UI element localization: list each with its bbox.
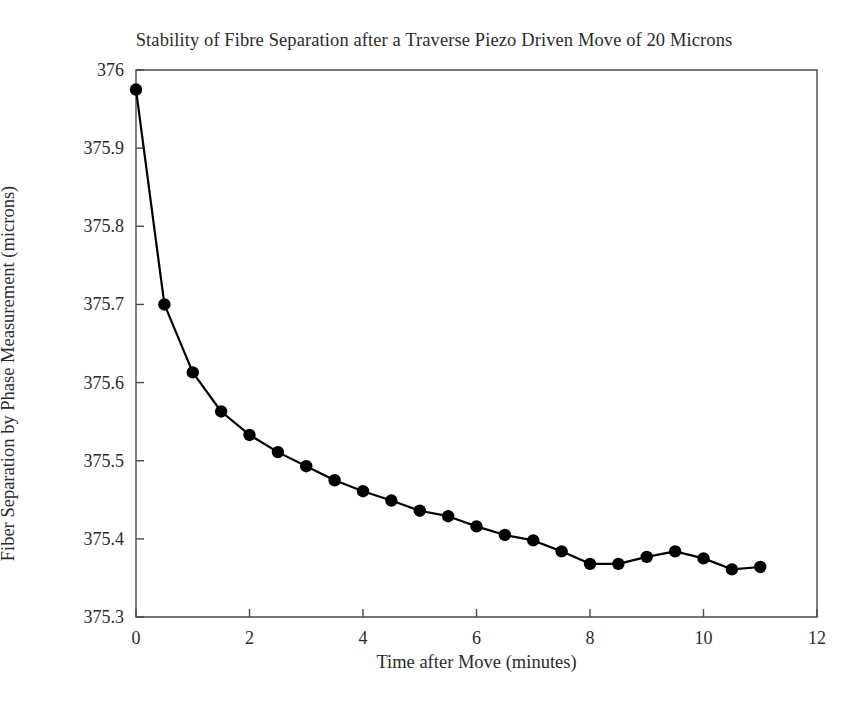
x-axis-label: Time after Move (minutes) [136, 652, 817, 673]
data-point-marker [328, 474, 340, 486]
data-point-marker [555, 545, 567, 557]
x-axis-tick-label: 2 [245, 628, 254, 648]
y-axis-tick-label: 375.8 [84, 216, 125, 236]
x-axis-tick-label: 12 [808, 628, 826, 648]
data-point-marker [499, 529, 511, 541]
data-point-marker [215, 405, 227, 417]
x-axis-tick-label: 8 [586, 628, 595, 648]
x-axis-tick-label: 4 [359, 628, 368, 648]
x-axis-tick-label: 0 [132, 628, 141, 648]
chart-figure: Stability of Fibre Separation after a Tr… [0, 0, 868, 707]
x-axis-tick-label: 6 [472, 628, 481, 648]
data-point-marker [357, 485, 369, 497]
data-point-marker [243, 429, 255, 441]
axis-frame [136, 70, 817, 617]
data-point-marker [385, 494, 397, 506]
data-point-marker [697, 552, 709, 564]
y-axis-tick-label: 375.5 [84, 451, 125, 471]
data-point-marker [300, 460, 312, 472]
data-point-marker [641, 551, 653, 563]
data-point-marker [442, 510, 454, 522]
data-point-marker [130, 83, 142, 95]
y-axis-tick-label: 375.7 [84, 294, 125, 314]
data-point-marker [584, 558, 596, 570]
data-point-marker [272, 446, 284, 458]
plot-area: 024681012375.3375.4375.5375.6375.7375.83… [0, 0, 868, 707]
data-point-marker [470, 520, 482, 532]
data-point-marker [669, 545, 681, 557]
y-axis-tick-label: 375.4 [84, 529, 125, 549]
data-point-marker [754, 561, 766, 573]
y-axis-tick-label: 376 [97, 60, 124, 80]
x-axis-tick-label: 10 [695, 628, 713, 648]
data-point-marker [158, 298, 170, 310]
data-point-marker [187, 366, 199, 378]
data-point-marker [527, 534, 539, 546]
y-axis-tick-label: 375.6 [84, 373, 125, 393]
data-point-marker [726, 563, 738, 575]
data-point-marker [612, 558, 624, 570]
data-point-marker [414, 505, 426, 517]
y-axis-tick-label: 375.9 [84, 138, 125, 158]
data-series-line [136, 90, 760, 570]
y-axis-tick-label: 375.3 [84, 607, 125, 627]
